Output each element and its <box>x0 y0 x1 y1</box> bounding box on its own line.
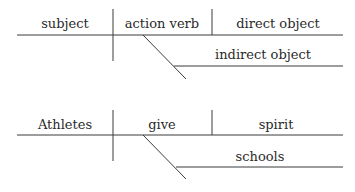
verb-label: give <box>148 118 176 131</box>
indirect-object-label: schools <box>236 150 285 163</box>
indirect-slant <box>143 35 186 79</box>
indirect-object-label: indirect object <box>215 48 311 61</box>
indirect-slant <box>143 135 186 179</box>
subject-label: subject <box>41 17 89 30</box>
verb-label: action verb <box>125 17 199 30</box>
subject-label: Athletes <box>38 118 92 131</box>
direct-object-label: direct object <box>236 17 319 30</box>
direct-object-label: spirit <box>259 118 294 131</box>
